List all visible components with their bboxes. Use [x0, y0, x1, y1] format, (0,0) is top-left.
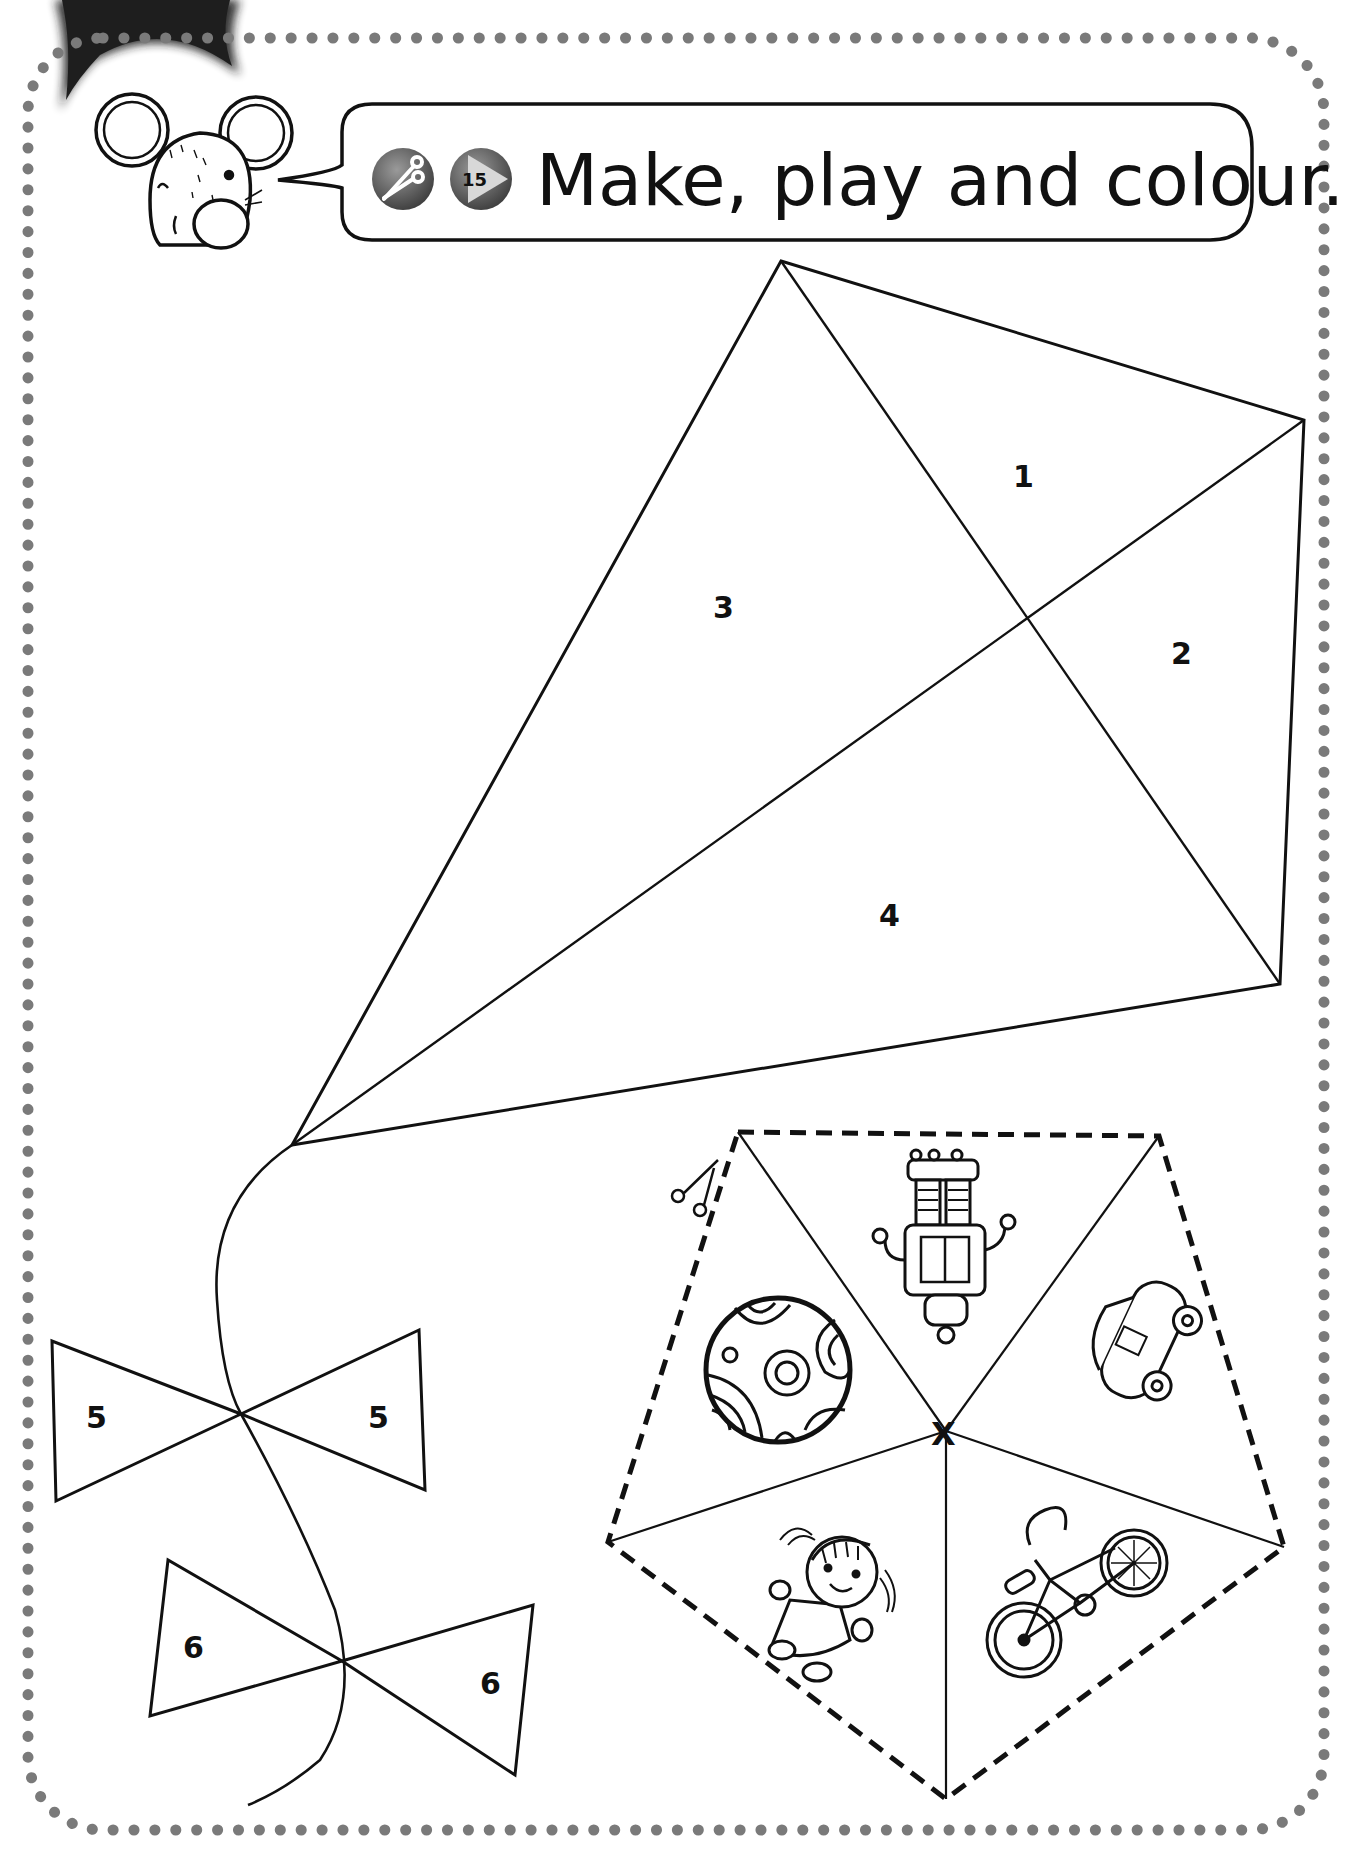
track-number: 15: [462, 169, 487, 190]
bow-6-right-label: 6: [480, 1666, 501, 1701]
instruction-title: Make, play and colour.: [536, 138, 1344, 222]
doll-picture: [769, 1529, 895, 1681]
kite-tail: [216, 1145, 344, 1805]
worksheet-page: 15 Make, play and colour. 1 2 3 4 5 5 6 …: [0, 0, 1348, 1869]
ball-picture: [706, 1298, 850, 1442]
bow-5-left-label: 5: [86, 1400, 107, 1435]
spinner-center-mark: X: [931, 1415, 956, 1453]
instruction-bubble: 15 Make, play and colour.: [278, 104, 1344, 240]
cut-scissors-icon: [672, 1160, 718, 1216]
bow-5-right-label: 5: [368, 1400, 389, 1435]
robot-picture: [873, 1150, 1015, 1343]
kite-section-label-1: 1: [1013, 459, 1034, 494]
bow-6-left-label: 6: [183, 1630, 204, 1665]
kite: [292, 261, 1304, 1145]
kite-section-label-3: 3: [713, 590, 734, 625]
kite-section-label-2: 2: [1171, 636, 1192, 671]
car-picture: [1074, 1265, 1211, 1414]
spinner-cutout: X: [608, 1132, 1284, 1799]
page-corner-tab: [55, 0, 240, 110]
kite-section-label-4: 4: [879, 898, 900, 933]
kite-bow-6: [150, 1560, 533, 1775]
audio-play-icon: 15: [450, 148, 512, 210]
dotted-border: [28, 38, 1324, 1830]
mouse-mascot: [96, 94, 292, 248]
scissors-icon: [372, 148, 434, 210]
